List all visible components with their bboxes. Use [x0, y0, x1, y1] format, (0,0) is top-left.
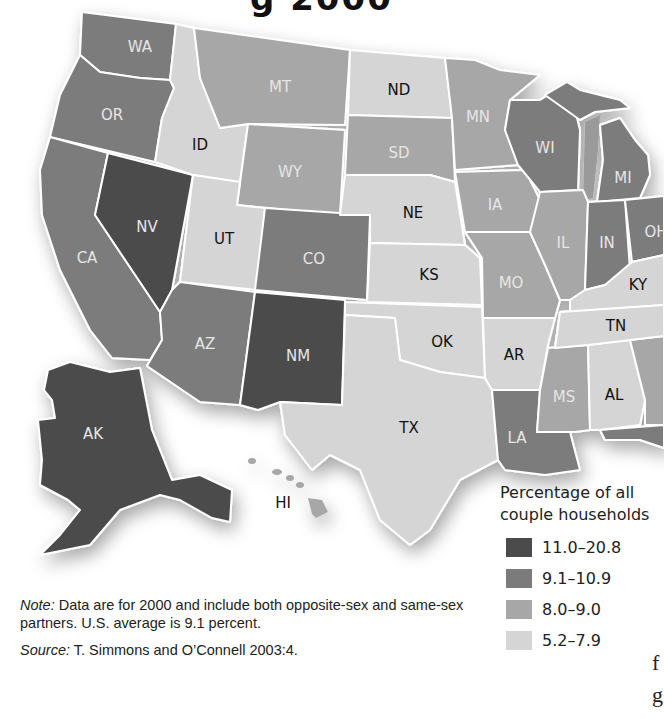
legend-swatch [506, 569, 532, 588]
state-label-mn: MN [466, 108, 490, 126]
lake-michigan [583, 115, 600, 200]
state-label-ne: NE [403, 204, 424, 222]
legend-swatch [506, 538, 532, 557]
legend-label: 11.0–20.8 [542, 538, 621, 557]
state-label-sd: SD [388, 144, 409, 162]
source-prefix: Source: [20, 642, 70, 658]
legend-label: 9.1–10.9 [542, 569, 611, 588]
state-label-nm: NM [286, 347, 310, 365]
source-text: Source: T. Simmons and O’Connell 2003:4. [20, 642, 298, 658]
legend-label: 8.0–9.0 [542, 600, 601, 619]
state-label-ut: UT [214, 230, 235, 248]
legend-swatch [506, 631, 532, 650]
state-fl-partial [600, 425, 664, 448]
cropped-text-fragment: g [652, 682, 663, 708]
state-label-in: IN [599, 234, 615, 252]
cropped-text-fragment: f [652, 650, 659, 676]
legend-item: 9.1–10.9 [500, 563, 664, 594]
state-label-nd: ND [388, 81, 411, 99]
note-body: Data are for 2000 and include both oppos… [20, 597, 463, 631]
state-label-ms: MS [553, 388, 575, 406]
state-mi-lower [597, 118, 650, 202]
legend-item: 8.0–9.0 [500, 594, 664, 625]
state-label-la: LA [508, 429, 528, 447]
legend-title-line2: couple households [500, 504, 664, 526]
note-text: Note: Data are for 2000 and include both… [20, 596, 490, 632]
state-label-ca: CA [77, 249, 98, 267]
legend-swatch [506, 600, 532, 619]
state-label-nv: NV [136, 218, 158, 236]
state-label-wi: WI [535, 139, 554, 157]
state-label-tn: TN [605, 317, 626, 335]
state-label-il: IL [557, 234, 570, 252]
state-label-oh: OH [644, 223, 664, 241]
legend-item: 11.0–20.8 [500, 532, 664, 563]
legend-label: 5.2–7.9 [542, 631, 601, 650]
state-label-mo: MO [499, 274, 524, 292]
state-label-ky: KY [629, 276, 648, 294]
state-label-ks: KS [419, 266, 438, 284]
state-label-or: OR [101, 106, 123, 124]
state-label-co: CO [303, 250, 325, 268]
legend-title-line1: Percentage of all [500, 482, 664, 504]
state-label-ok: OK [431, 333, 454, 351]
state-label-ak: AK [83, 425, 104, 443]
state-label-wy: WY [278, 163, 303, 181]
state-label-hi: HI [275, 494, 291, 512]
state-label-mt: MT [269, 78, 292, 96]
source-body: T. Simmons and O’Connell 2003:4. [70, 642, 298, 658]
legend: Percentage of all couple households 11.0… [500, 482, 664, 656]
state-label-ia: IA [488, 196, 503, 214]
map-states-group [38, 12, 664, 555]
state-label-mi: MI [614, 169, 631, 187]
state-label-id: ID [192, 136, 208, 154]
state-label-al: AL [605, 386, 624, 404]
state-label-az: AZ [195, 335, 216, 353]
state-label-ar: AR [504, 346, 525, 364]
note-prefix: Note: [20, 597, 55, 613]
state-label-tx: TX [398, 419, 418, 437]
state-label-wa: WA [128, 38, 153, 56]
legend-item: 5.2–7.9 [500, 625, 664, 656]
